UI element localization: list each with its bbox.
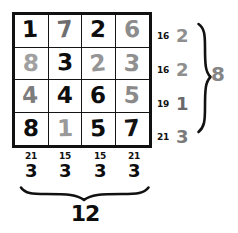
col-root-digit: 3 [83, 162, 117, 180]
figure-canvas: 1 7 2 6 8 3 2 3 4 4 6 5 8 1 5 7 16 2 16 … [0, 0, 238, 233]
grid-cell: 5 [116, 80, 150, 113]
row-sum-label: 16 [154, 31, 169, 41]
bottom-brace [20, 186, 150, 202]
grid-cell: 3 [49, 48, 83, 81]
row-total-value: 8 [211, 64, 224, 84]
grid-cell: 4 [15, 80, 49, 113]
row-sum-label: 19 [154, 99, 169, 109]
cell-digit: 4 [22, 84, 39, 108]
grid-cell: 7 [49, 15, 83, 48]
grid-cell: 1 [49, 113, 83, 146]
grid-cell: 6 [116, 15, 150, 48]
grid-cell: 2 [82, 15, 116, 48]
col-total-value: 12 [0, 203, 170, 225]
digit-grid: 1 7 2 6 8 3 2 3 4 4 6 5 8 1 5 7 [12, 12, 152, 148]
col-annotation: 15 3 [48, 151, 82, 180]
grid-cell: 4 [49, 80, 83, 113]
col-root-digit: 3 [48, 162, 82, 180]
cell-digit: 3 [124, 51, 141, 75]
col-root-digit: 3 [14, 162, 48, 180]
cell-digit: 6 [90, 84, 106, 108]
grid-cell: 5 [82, 113, 116, 146]
grid-cell: 6 [82, 80, 116, 113]
row-root-digit: 3 [176, 128, 188, 146]
cell-digit: 8 [23, 51, 40, 75]
cell-digit: 2 [89, 51, 107, 75]
col-annotation: 21 3 [117, 151, 151, 180]
grid-cell: 8 [15, 113, 49, 146]
col-annotation: 15 3 [83, 151, 117, 180]
cell-digit: 6 [124, 18, 141, 42]
row-root-digit: 2 [176, 61, 188, 79]
row-annotation: 16 2 [154, 19, 202, 53]
grid-cell: 2 [82, 48, 116, 81]
cell-digit: 1 [57, 117, 73, 140]
grid-cell: 1 [15, 15, 49, 48]
cell-digit: 7 [124, 117, 141, 141]
col-root-digit: 3 [117, 162, 151, 180]
grid-cell: 7 [116, 113, 150, 146]
row-root-digit: 2 [176, 27, 188, 45]
cell-digit: 3 [57, 51, 73, 74]
cell-digit: 8 [23, 117, 39, 141]
right-brace [196, 23, 212, 133]
cell-digit: 1 [22, 18, 38, 42]
cell-digit: 5 [90, 117, 107, 141]
row-annotation: 16 2 [154, 53, 202, 87]
grid-cell: 3 [116, 48, 150, 81]
col-annotation: 21 3 [14, 151, 48, 180]
grid-cell: 8 [15, 48, 49, 81]
row-annotation: 19 1 [154, 87, 202, 121]
cell-digit: 7 [56, 18, 73, 42]
cell-digit: 5 [124, 84, 141, 108]
row-sum-label: 16 [154, 65, 169, 75]
row-sum-label: 21 [154, 132, 169, 142]
cell-digit: 4 [57, 84, 73, 107]
row-root-digit: 1 [176, 95, 188, 113]
row-annotation: 21 3 [154, 120, 202, 154]
cell-digit: 2 [90, 18, 106, 42]
